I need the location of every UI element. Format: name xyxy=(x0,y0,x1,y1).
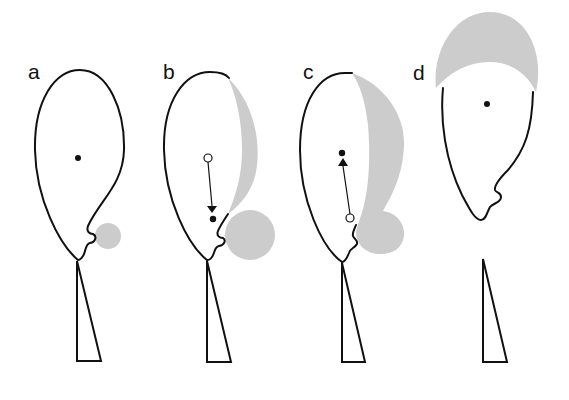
arrow-down-icon xyxy=(207,206,217,213)
arrow-line xyxy=(208,162,212,206)
new-center-dot xyxy=(339,150,345,156)
stem xyxy=(77,261,101,361)
center-dot xyxy=(75,155,81,161)
four-panel-diagram: a b c xyxy=(0,0,569,400)
shade-crescent xyxy=(228,78,258,214)
body-outline xyxy=(164,72,229,260)
panel-label-d: d xyxy=(413,61,425,84)
panel-label-c: c xyxy=(303,60,314,83)
stem xyxy=(483,259,507,362)
shade-circle xyxy=(225,210,275,260)
new-center-dot xyxy=(210,216,216,222)
arrow-up-icon xyxy=(338,158,348,166)
panel-c: c xyxy=(300,60,404,362)
body-outline-lower xyxy=(207,214,228,260)
body-outline xyxy=(442,88,533,220)
body-outline xyxy=(300,73,352,262)
stem xyxy=(207,261,231,362)
stem xyxy=(342,263,365,362)
shade-cap xyxy=(436,12,539,92)
original-center-dot xyxy=(346,214,354,222)
panel-label-a: a xyxy=(28,60,40,83)
shade-circle xyxy=(95,223,121,249)
panel-d: d xyxy=(413,12,538,362)
panel-a: a xyxy=(28,60,124,361)
shade-crescent xyxy=(352,73,404,254)
panel-b: b xyxy=(163,60,275,362)
panel-label-b: b xyxy=(163,60,175,83)
arrow-line xyxy=(343,166,350,214)
center-dot xyxy=(484,101,490,107)
body-outline-lower xyxy=(342,225,357,262)
original-center-dot xyxy=(204,154,212,162)
